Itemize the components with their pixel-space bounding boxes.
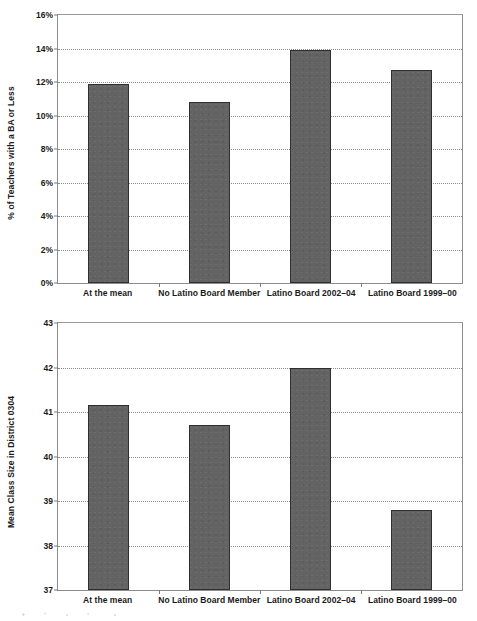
bar [290,50,331,283]
gridline [58,49,462,50]
bar [88,405,129,590]
y-axis-tick-mark [54,82,58,83]
scan-noise [14,612,134,617]
y-axis-tick-mark [54,323,58,324]
x-axis-label: Latino Board 2002–04 [260,288,361,298]
y-axis-tick-mark [54,149,58,150]
y-axis-tick-mark [54,367,58,368]
x-axis-label: Latino Board 1999–00 [362,595,463,605]
x-axis-tick-mark [260,590,261,594]
x-axis-tick-mark [159,590,160,594]
y-axis-tick-mark [54,545,58,546]
y-axis-title: % of Teachers with a BA or Less [0,0,22,306]
x-axis-label: No Latino Board Member [158,288,260,298]
y-axis-tick-mark [54,15,58,16]
x-axis-tick-mark [260,283,261,287]
y-axis-title: Mean Class Size in District 0304 [0,312,22,612]
bar [88,84,129,283]
x-axis-label: Latino Board 2002–04 [260,595,361,605]
chart-teachers-ba-or-less: % of Teachers with a BA or Less 0%2%4%6%… [0,0,477,306]
x-axis-category-labels: At the mean No Latino Board Member Latin… [57,288,463,298]
bar [189,102,230,283]
bar [189,425,230,590]
y-axis-tick-mark [54,216,58,217]
x-axis-label: Latino Board 1999–00 [362,288,463,298]
plot-area: 0%2%4%6%8%10%12%14%16% [57,14,463,284]
y-axis-tick-mark [54,115,58,116]
x-axis-label: No Latino Board Member [158,595,260,605]
bar [290,368,331,591]
y-axis-tick-mark [54,48,58,49]
plot-area: 37383940414243 [57,322,463,591]
x-axis-label: At the mean [57,288,158,298]
y-axis-tick-mark [54,412,58,413]
x-axis-tick-mark [159,283,160,287]
y-axis-tick-mark [54,182,58,183]
y-axis-tick-mark [54,501,58,502]
y-axis-tick-mark [54,456,58,457]
y-axis-tick-mark [54,590,58,591]
chart-mean-class-size: Mean Class Size in District 0304 3738394… [0,312,477,612]
x-axis-tick-mark [361,590,362,594]
bar [391,510,432,590]
x-axis-label: At the mean [57,595,158,605]
y-axis-tick-mark [54,249,58,250]
gridline [58,368,462,369]
x-axis-tick-mark [361,283,362,287]
y-axis-tick-mark [54,283,58,284]
x-axis-category-labels: At the mean No Latino Board Member Latin… [57,595,463,605]
bar [391,70,432,283]
